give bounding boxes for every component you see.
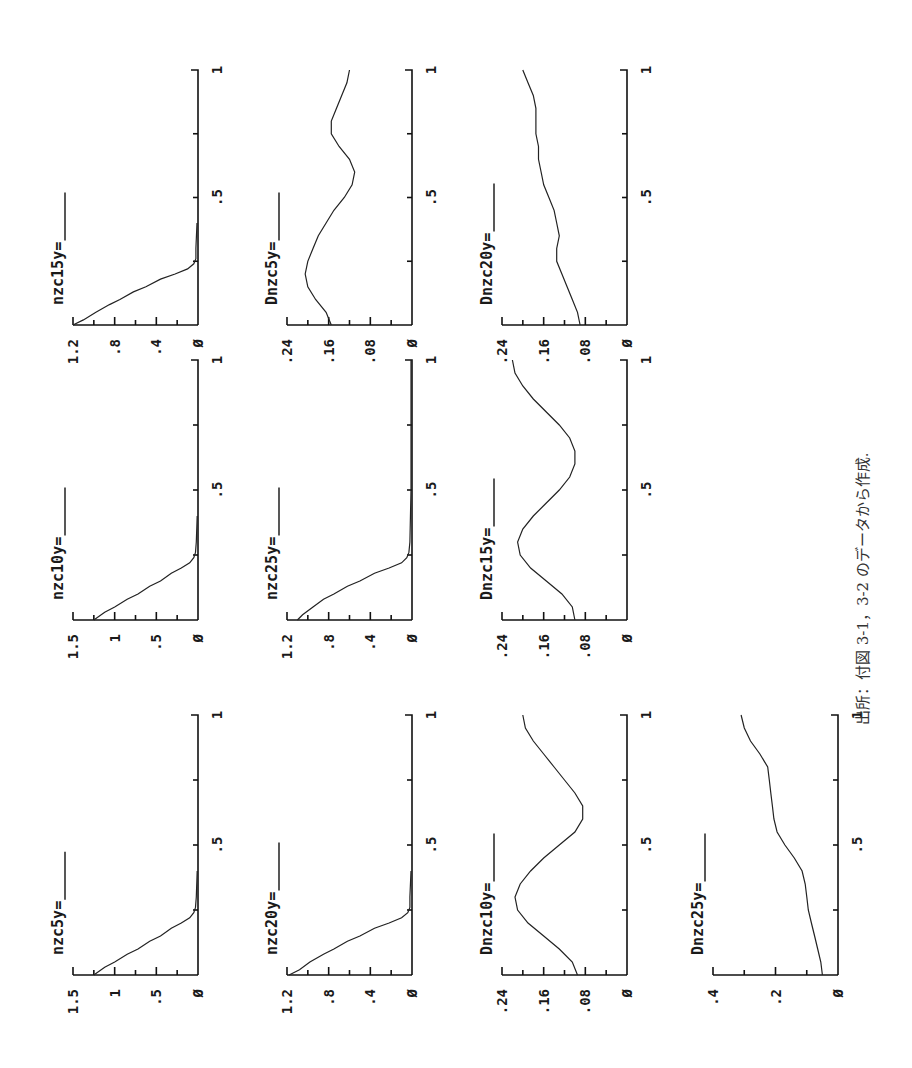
plot-title: Dnzc25y=	[689, 883, 707, 955]
x-tick-label: .5	[423, 482, 439, 499]
y-tick-label: Ø	[619, 988, 635, 998]
plot-title: nzc15y=	[49, 242, 67, 305]
x-tick-label: .5	[209, 837, 225, 854]
plot-title: Dnzc10y=	[478, 883, 496, 955]
y-tick-label: .4	[705, 989, 721, 1006]
data-line	[94, 871, 197, 975]
data-line	[289, 871, 411, 975]
small-multiples-grid: 1.51.5Ø.51nzc5y=1.51.5Ø.51nzc10y=1.2.8.4…	[0, 0, 912, 1068]
y-tick-label: 1.5	[65, 634, 81, 659]
y-tick-label: Ø	[830, 988, 846, 998]
y-tick-label: .08	[362, 339, 378, 364]
y-tick-label: Ø	[190, 633, 206, 643]
y-tick-label: 1.2	[65, 339, 81, 364]
plot-Dnzc5y: .24.16.08Ø.51Dnzc5y=	[263, 66, 439, 365]
y-tick-label: Ø	[404, 338, 420, 348]
plot-Dnzc10y: .24.16.08Ø.51Dnzc10y=	[478, 711, 654, 1015]
y-tick-label: .08	[577, 339, 593, 364]
plot-nzc25y: 1.2.8.4Ø.51nzc25y=	[263, 356, 439, 660]
y-tick-label: .24	[494, 339, 510, 364]
y-tick-label: .4	[362, 634, 378, 651]
y-tick-label: .8	[321, 989, 337, 1006]
x-tick-label: .5	[423, 837, 439, 854]
y-tick-label: 1.2	[279, 634, 295, 659]
plot-nzc20y: 1.2.8.4Ø.51nzc20y=	[263, 711, 439, 1015]
x-tick-label: 1	[638, 711, 654, 719]
x-tick-label: .5	[849, 837, 865, 854]
y-tick-label: .16	[536, 634, 552, 659]
y-tick-label: Ø	[619, 633, 635, 643]
x-tick-label: .5	[209, 482, 225, 499]
x-tick-label: .5	[638, 189, 654, 206]
x-tick-label: 1	[423, 66, 439, 74]
plot-title: Dnzc20y=	[478, 233, 496, 305]
x-tick-label: 1	[209, 356, 225, 364]
y-tick-label: .16	[536, 339, 552, 364]
y-tick-label: .16	[536, 989, 552, 1014]
x-tick-label: 1	[638, 356, 654, 364]
plot-Dnzc20y: .24.16.08Ø.51Dnzc20y=	[478, 66, 654, 365]
y-tick-label: .16	[321, 339, 337, 364]
plot-nzc10y: 1.51.5Ø.51nzc10y=	[49, 356, 225, 660]
data-line	[512, 360, 575, 620]
y-tick-label: .5	[148, 634, 164, 651]
y-tick-label: Ø	[190, 338, 206, 348]
plot-Dnzc25y: .4.2Ø.51Dnzc25y=	[689, 711, 865, 1006]
x-tick-label: .5	[423, 189, 439, 206]
y-tick-label: .24	[279, 339, 295, 364]
figure-page: 1.51.5Ø.51nzc5y=1.51.5Ø.51nzc10y=1.2.8.4…	[0, 0, 912, 1068]
data-line	[515, 715, 583, 975]
y-tick-label: Ø	[404, 633, 420, 643]
x-tick-label: .5	[638, 482, 654, 499]
plot-nzc5y: 1.51.5Ø.51nzc5y=	[49, 711, 225, 1015]
y-tick-label: Ø	[190, 988, 206, 998]
plot-title: nzc5y=	[49, 901, 67, 955]
data-line	[94, 516, 197, 620]
data-line	[297, 360, 411, 620]
plot-nzc15y: 1.2.8.4Ø.51nzc15y=	[49, 66, 225, 365]
y-tick-label: .5	[148, 989, 164, 1006]
y-tick-label: .08	[577, 989, 593, 1014]
data-line	[73, 223, 197, 325]
plot-title: nzc20y=	[263, 892, 281, 955]
y-tick-label: .24	[494, 989, 510, 1014]
y-tick-label: 1	[107, 634, 123, 642]
plot-Dnzc15y: .24.16.08Ø.51Dnzc15y=	[478, 356, 654, 660]
plot-title: Dnzc15y=	[478, 528, 496, 600]
y-tick-label: 1.5	[65, 989, 81, 1014]
data-line	[741, 715, 822, 975]
y-tick-label: .4	[362, 989, 378, 1006]
y-tick-label: .8	[107, 339, 123, 356]
y-tick-label: .8	[321, 634, 337, 651]
x-tick-label: 1	[849, 711, 865, 719]
data-line	[305, 70, 355, 325]
y-tick-label: Ø	[619, 338, 635, 348]
data-line	[523, 70, 580, 325]
x-tick-label: 1	[423, 711, 439, 719]
y-tick-label: 1	[107, 989, 123, 997]
plot-title: Dnzc5y=	[263, 242, 281, 305]
y-tick-label: .4	[148, 339, 164, 356]
plot-title: nzc25y=	[263, 537, 281, 600]
y-tick-label: .08	[577, 634, 593, 659]
x-tick-label: .5	[209, 189, 225, 206]
x-tick-label: .5	[638, 837, 654, 854]
x-tick-label: 1	[209, 711, 225, 719]
y-tick-label: .24	[494, 634, 510, 659]
x-tick-label: 1	[638, 66, 654, 74]
y-tick-label: Ø	[404, 988, 420, 998]
x-tick-label: 1	[423, 356, 439, 364]
y-tick-label: 1.2	[279, 989, 295, 1014]
plot-title: nzc10y=	[49, 537, 67, 600]
x-tick-label: 1	[209, 66, 225, 74]
y-tick-label: .2	[768, 989, 784, 1006]
